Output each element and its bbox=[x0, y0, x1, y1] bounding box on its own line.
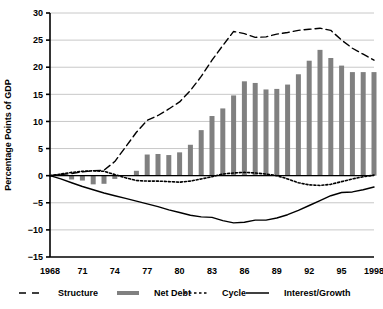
bar bbox=[274, 89, 279, 176]
x-tick-label: 1998 bbox=[364, 266, 383, 276]
bar bbox=[242, 81, 247, 175]
y-tick-label: 20 bbox=[33, 62, 43, 72]
bar bbox=[328, 58, 333, 176]
x-tick-label: 89 bbox=[272, 266, 282, 276]
bar bbox=[253, 83, 258, 176]
x-tick-label: 74 bbox=[110, 266, 120, 276]
bar bbox=[231, 95, 236, 175]
line-series-interest-growth bbox=[50, 176, 374, 223]
bar bbox=[307, 61, 312, 176]
bar bbox=[134, 171, 139, 176]
bar-series-net-debt bbox=[48, 50, 377, 184]
chart-canvas: −15−10−505101520253019687174778083868992… bbox=[0, 0, 383, 309]
x-tick-label: 80 bbox=[175, 266, 185, 276]
bar bbox=[318, 50, 323, 176]
y-tick-label: −10 bbox=[28, 225, 43, 235]
x-tick-label: 77 bbox=[142, 266, 152, 276]
bar bbox=[372, 72, 377, 176]
bar bbox=[166, 155, 171, 176]
bar bbox=[145, 155, 150, 176]
x-tick-label: 86 bbox=[239, 266, 249, 276]
bar bbox=[285, 85, 290, 176]
legend-label: Structure bbox=[58, 288, 98, 298]
bar bbox=[210, 116, 215, 176]
bar bbox=[91, 176, 96, 185]
x-tick-label: 1968 bbox=[40, 266, 60, 276]
y-tick-label: 0 bbox=[38, 171, 43, 181]
bar bbox=[156, 154, 161, 176]
bar bbox=[296, 74, 301, 175]
chart-figure: −15−10−505101520253019687174778083868992… bbox=[0, 0, 383, 309]
legend-label: Cycle bbox=[222, 288, 246, 298]
bar bbox=[199, 130, 204, 176]
x-tick-label: 95 bbox=[337, 266, 347, 276]
y-tick-label: 5 bbox=[38, 144, 43, 154]
bar bbox=[361, 72, 366, 176]
bar bbox=[188, 145, 193, 176]
bar bbox=[102, 176, 107, 184]
y-tick-label: 25 bbox=[33, 35, 43, 45]
bar bbox=[350, 72, 355, 176]
y-tick-label: 15 bbox=[33, 90, 43, 100]
bar bbox=[80, 176, 85, 181]
bar bbox=[220, 108, 225, 175]
x-tick-label: 71 bbox=[77, 266, 87, 276]
x-axis-ticks: 19687174778083868992951998 bbox=[40, 266, 383, 276]
bar bbox=[339, 66, 344, 176]
y-axis-title: Percentage Points of GDP bbox=[3, 79, 13, 191]
y-tick-label: −15 bbox=[28, 252, 43, 262]
chart-legend: StructureNet DebtCycleInterest/Growth bbox=[19, 288, 351, 298]
legend-label: Interest/Growth bbox=[284, 288, 351, 298]
bar bbox=[177, 152, 182, 175]
y-tick-label: 10 bbox=[33, 117, 43, 127]
y-axis-ticks: −15−10−5051015202530 bbox=[28, 8, 50, 262]
x-tick-label: 83 bbox=[207, 266, 217, 276]
y-tick-label: −5 bbox=[33, 198, 43, 208]
y-tick-label: 30 bbox=[33, 8, 43, 18]
x-tick-label: 92 bbox=[304, 266, 314, 276]
bar bbox=[264, 89, 269, 175]
